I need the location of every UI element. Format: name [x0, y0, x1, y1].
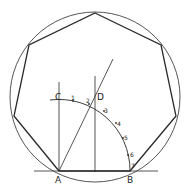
division-label-1: 1 [71, 94, 75, 101]
division-label-3: 3 [104, 107, 108, 114]
quarter-arc-c-to-b [50, 99, 130, 171]
label-d: D [97, 92, 104, 102]
label-c: C [55, 92, 61, 102]
label-a: A [55, 175, 62, 185]
division-label-6: 6 [130, 151, 134, 158]
division-ticks [72, 100, 129, 156]
division-label-2: 2 [86, 97, 90, 104]
line-a-through-d [59, 59, 113, 171]
label-b: B [127, 175, 133, 185]
division-label-7: 7 [131, 162, 135, 169]
division-label-5: 5 [124, 134, 128, 141]
heptagon-construction-diagram: A B C D 1 2 3 4 5 6 7 [0, 0, 190, 187]
diagram-canvas: A B C D 1 2 3 4 5 6 7 [0, 0, 190, 187]
division-label-4: 4 [117, 120, 121, 127]
